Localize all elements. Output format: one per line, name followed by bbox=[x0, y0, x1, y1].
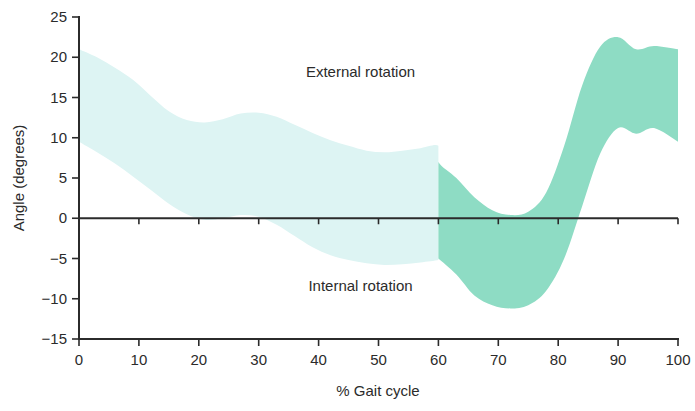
y-tick-label--5: −5 bbox=[50, 250, 67, 267]
y-tick-label-20: 20 bbox=[50, 48, 67, 65]
x-tick-label-90: 90 bbox=[610, 351, 627, 368]
x-tick-label-100: 100 bbox=[665, 351, 690, 368]
x-tick-label-50: 50 bbox=[370, 351, 387, 368]
internal-rotation-label: Internal rotation bbox=[308, 277, 412, 294]
gait-rotation-chart-figure: −15−10−50510152025 010203040506070809010… bbox=[0, 0, 695, 411]
x-tick-label-60: 60 bbox=[430, 351, 447, 368]
y-axis-tick-labels: −15−10−50510152025 bbox=[42, 8, 67, 347]
x-axis-tick-labels: 0102030405060708090100 bbox=[75, 351, 691, 368]
external-rotation-label: External rotation bbox=[306, 63, 415, 80]
x-tick-label-30: 30 bbox=[250, 351, 267, 368]
y-tick-label-5: 5 bbox=[59, 169, 67, 186]
x-tick-label-0: 0 bbox=[75, 351, 83, 368]
y-tick-label--10: −10 bbox=[42, 290, 67, 307]
x-tick-label-10: 10 bbox=[131, 351, 148, 368]
x-tick-label-80: 80 bbox=[550, 351, 567, 368]
chart-canvas: −15−10−50510152025 010203040506070809010… bbox=[0, 0, 695, 411]
y-axis-title: Angle (degrees) bbox=[10, 125, 27, 232]
band-stance-phase bbox=[79, 49, 438, 265]
x-axis-title: % Gait cycle bbox=[336, 382, 419, 399]
y-tick-label-10: 10 bbox=[50, 129, 67, 146]
y-axis-ticks bbox=[72, 17, 79, 339]
band-swing-phase bbox=[438, 37, 678, 308]
x-tick-label-20: 20 bbox=[190, 351, 207, 368]
x-tick-label-70: 70 bbox=[490, 351, 507, 368]
y-tick-label-0: 0 bbox=[59, 209, 67, 226]
x-tick-label-40: 40 bbox=[310, 351, 327, 368]
y-tick-label-15: 15 bbox=[50, 89, 67, 106]
y-tick-label--15: −15 bbox=[42, 330, 67, 347]
y-tick-label-25: 25 bbox=[50, 8, 67, 25]
